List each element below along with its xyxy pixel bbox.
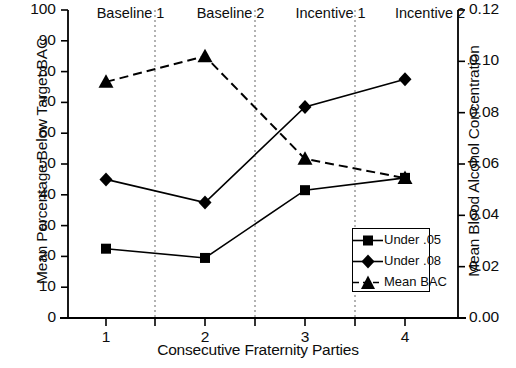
phase-label-4: Incentive 2	[380, 5, 480, 21]
legend-label-under-08: Under .08	[384, 253, 441, 268]
y-left-tick-label-5: 50	[16, 154, 56, 172]
phase-label-2: Baseline 2	[181, 5, 281, 21]
y-left-tick-label-6: 60	[16, 123, 56, 141]
phase-divider-group	[155, 10, 355, 318]
y-left-tick-label-10: 100	[16, 0, 56, 18]
data-point	[300, 185, 310, 195]
y-left-tick-label-2: 20	[16, 246, 56, 264]
x-tick-label-3: 4	[390, 328, 420, 346]
plot-area	[0, 0, 516, 368]
series-line	[106, 56, 405, 178]
data-point	[100, 172, 113, 186]
x-tick-label-1: 2	[190, 328, 220, 346]
triangle-marker-icon	[351, 272, 385, 293]
legend-item-mean-bac: Mean BAC	[353, 272, 429, 293]
y-left-tick-label-9: 90	[16, 31, 56, 49]
y-left-tick-label-7: 70	[16, 92, 56, 110]
x-tick-label-2: 3	[290, 328, 320, 346]
phase-label-3: Incentive 1	[281, 5, 381, 21]
legend-label-mean-bac: Mean BAC	[384, 274, 447, 289]
x-tick-label-0: 1	[91, 328, 121, 346]
y-left-tick-label-0: 0	[16, 308, 56, 326]
legend-label-under-05: Under .05	[384, 232, 441, 247]
data-point	[399, 72, 412, 86]
legend-item-under-05: Under .05	[353, 230, 429, 251]
data-point	[198, 49, 213, 63]
y-right-tick-label-2: 0.04	[469, 205, 516, 223]
chart-legend: Under .05 Under .08 Mean BAC	[352, 228, 430, 292]
chart-figure: Mean Percentage Below Target BAC Mean Bl…	[0, 0, 516, 368]
diamond-marker-icon	[351, 251, 385, 272]
legend-item-under-08: Under .08	[353, 251, 429, 272]
y-right-tick-label-3: 0.06	[469, 154, 516, 172]
square-marker-icon	[351, 230, 385, 251]
y-right-tick-label-0: 0.00	[469, 308, 516, 326]
y-right-tick-label-4: 0.08	[469, 103, 516, 121]
y-left-tick-label-1: 10	[16, 277, 56, 295]
y-left-tick-label-8: 80	[16, 62, 56, 80]
y-left-tick-label-4: 40	[16, 185, 56, 203]
data-point	[200, 253, 210, 263]
y-right-tick-label-1: 0.02	[469, 257, 516, 275]
y-right-tick-label-5: 0.10	[469, 51, 516, 69]
y-left-tick-label-3: 30	[16, 216, 56, 234]
phase-label-1: Baseline 1	[81, 5, 181, 21]
data-point	[101, 244, 111, 254]
